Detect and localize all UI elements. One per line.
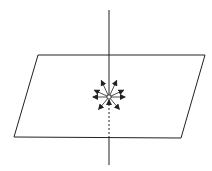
arrow: [99, 99, 108, 110]
arrow: [110, 81, 117, 95]
arrow: [94, 90, 107, 96]
center-point: [107, 95, 111, 99]
arrow: [110, 99, 119, 110]
arrow: [111, 90, 124, 96]
plane-field-diagram: [0, 0, 212, 171]
arrow: [101, 81, 108, 95]
